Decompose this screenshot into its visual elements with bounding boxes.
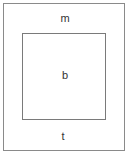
center-label: b (55, 70, 75, 81)
top-label: m (55, 13, 75, 24)
bottom-label: t (53, 131, 73, 142)
